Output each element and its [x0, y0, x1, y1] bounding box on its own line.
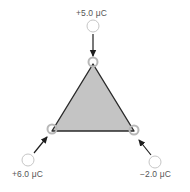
arrow-bottom-left-icon	[34, 137, 47, 153]
charge-label-bottom-left: +6.0 μC	[12, 169, 43, 179]
charge-circle-bottom-right	[149, 156, 161, 168]
triangle	[52, 64, 134, 131]
charge-circle-bottom-left	[22, 154, 34, 166]
charge-triangle-diagram	[0, 0, 190, 192]
arrow-bottom-right-icon	[139, 140, 151, 155]
charge-label-top: +5.0 μC	[76, 8, 107, 18]
charge-circle-top	[87, 20, 99, 32]
charge-label-bottom-right: −2.0 μC	[140, 169, 171, 179]
